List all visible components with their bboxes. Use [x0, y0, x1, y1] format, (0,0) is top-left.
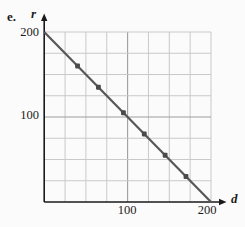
- data-point: [184, 174, 189, 179]
- data-point: [163, 153, 168, 158]
- y-tick-label-200: 200: [9, 26, 39, 39]
- y-tick-label-100: 100: [9, 109, 39, 122]
- x-tick-label-200: 200: [191, 204, 223, 217]
- data-point: [142, 132, 147, 137]
- y-axis-label: r: [31, 7, 36, 20]
- x-axis-label: d: [231, 192, 238, 205]
- y-axis-arrow-icon: [41, 14, 47, 22]
- item-label: e.: [7, 10, 16, 23]
- x-tick-label-100: 100: [111, 204, 143, 217]
- graph-figure: e. r d 200 100 100 200: [0, 0, 245, 227]
- data-point: [96, 85, 101, 90]
- data-point: [75, 64, 80, 69]
- data-point: [121, 110, 126, 115]
